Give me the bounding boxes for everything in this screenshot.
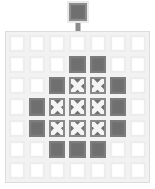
- tile-empty: [49, 56, 65, 73]
- board-cell[interactable]: [108, 33, 128, 54]
- board-cell[interactable]: [88, 33, 108, 54]
- tile-empty: [9, 141, 25, 158]
- board-cell[interactable]: [27, 33, 47, 54]
- board-cell[interactable]: [27, 160, 47, 181]
- board-cell[interactable]: [108, 160, 128, 181]
- board-cell[interactable]: [27, 139, 47, 160]
- tile-empty: [9, 120, 25, 137]
- board-cell[interactable]: [67, 118, 87, 139]
- board-cell[interactable]: [47, 96, 67, 117]
- board-cell[interactable]: [67, 139, 87, 160]
- tile-filled: [49, 77, 65, 94]
- board-cell[interactable]: [108, 96, 128, 117]
- tile-filled: [49, 141, 65, 158]
- tile-filled: [110, 77, 126, 94]
- tile-empty: [110, 162, 126, 179]
- board-cell[interactable]: [7, 96, 27, 117]
- tile-cross: [90, 77, 106, 94]
- tile-filled: [29, 98, 45, 115]
- board-cell[interactable]: [88, 160, 108, 181]
- tile-filled: [90, 141, 106, 158]
- board-cell[interactable]: [47, 75, 67, 96]
- tile-cross: [49, 120, 65, 137]
- tile-cross: [69, 120, 85, 137]
- tile-empty: [110, 56, 126, 73]
- tile-empty: [29, 141, 45, 158]
- game-board[interactable]: [5, 31, 150, 183]
- tile-empty: [9, 56, 25, 73]
- board-cell[interactable]: [128, 54, 148, 75]
- board-cell[interactable]: [108, 54, 128, 75]
- board-cell[interactable]: [27, 54, 47, 75]
- tile-cross: [69, 98, 85, 115]
- tile-empty: [130, 77, 146, 94]
- board-cell[interactable]: [67, 96, 87, 117]
- tile-cross: [49, 98, 65, 115]
- board-cell[interactable]: [27, 75, 47, 96]
- tile-empty: [130, 141, 146, 158]
- tile-empty: [69, 162, 85, 179]
- tile-filled: [69, 56, 85, 73]
- tile-empty: [130, 98, 146, 115]
- board-cell[interactable]: [47, 160, 67, 181]
- board-cell[interactable]: [128, 75, 148, 96]
- board-cell[interactable]: [7, 33, 27, 54]
- dragged-tile-face: [69, 3, 87, 21]
- tile-empty: [90, 162, 106, 179]
- board-cell[interactable]: [128, 96, 148, 117]
- board-cell[interactable]: [108, 75, 128, 96]
- tile-empty: [130, 162, 146, 179]
- board-cell[interactable]: [128, 33, 148, 54]
- board-cell[interactable]: [128, 139, 148, 160]
- tile-empty: [110, 35, 126, 52]
- tile-filled: [110, 120, 126, 137]
- board-cell[interactable]: [47, 54, 67, 75]
- tile-filled: [110, 98, 126, 115]
- board-cell[interactable]: [108, 139, 128, 160]
- board-cell[interactable]: [47, 118, 67, 139]
- board-cell[interactable]: [47, 33, 67, 54]
- tile-empty: [130, 120, 146, 137]
- board-cell[interactable]: [7, 118, 27, 139]
- tile-empty: [9, 77, 25, 94]
- board-cell[interactable]: [67, 33, 87, 54]
- board-cell[interactable]: [27, 96, 47, 117]
- tile-empty: [9, 98, 25, 115]
- tile-empty: [130, 35, 146, 52]
- tile-filled: [69, 141, 85, 158]
- board-cell[interactable]: [88, 139, 108, 160]
- board-cell[interactable]: [88, 96, 108, 117]
- dragged-tile[interactable]: [67, 1, 89, 23]
- board-cell[interactable]: [7, 54, 27, 75]
- board-cell[interactable]: [128, 160, 148, 181]
- tile-cross: [90, 98, 106, 115]
- scene-stage: [0, 0, 155, 189]
- tile-empty: [49, 162, 65, 179]
- tile-empty: [9, 35, 25, 52]
- board-cell[interactable]: [67, 75, 87, 96]
- board-cell[interactable]: [47, 139, 67, 160]
- tile-empty: [29, 56, 45, 73]
- board-cell[interactable]: [7, 160, 27, 181]
- tile-cross: [90, 120, 106, 137]
- tile-empty: [49, 35, 65, 52]
- board-cell[interactable]: [108, 118, 128, 139]
- tile-empty: [29, 35, 45, 52]
- board-cell[interactable]: [88, 118, 108, 139]
- board-cell[interactable]: [67, 54, 87, 75]
- tile-cross: [69, 77, 85, 94]
- board-cell[interactable]: [27, 118, 47, 139]
- board-cell[interactable]: [67, 160, 87, 181]
- board-cell[interactable]: [88, 54, 108, 75]
- tile-empty: [110, 141, 126, 158]
- board-cell[interactable]: [7, 139, 27, 160]
- board-cell[interactable]: [128, 118, 148, 139]
- board-cell[interactable]: [88, 75, 108, 96]
- tile-empty: [130, 56, 146, 73]
- tile-empty: [29, 162, 45, 179]
- tile-empty: [90, 35, 106, 52]
- tile-filled: [29, 120, 45, 137]
- tile-empty: [69, 35, 85, 52]
- board-cell[interactable]: [7, 75, 27, 96]
- tile-empty: [9, 162, 25, 179]
